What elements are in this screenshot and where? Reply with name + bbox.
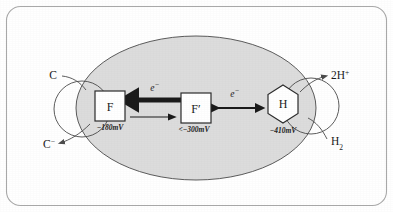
node-f-prime-potential: <−300mV — [179, 125, 211, 134]
hydrogen-subscript: 2 — [339, 143, 343, 152]
node-f-prime-label: F′ — [191, 102, 201, 116]
label-proton: 2H+ — [331, 68, 349, 82]
node-h-label: H — [279, 97, 288, 111]
electron-transfer-diagram: F −180mV F′ <−300mV H −410mV e− e− C — [0, 0, 393, 212]
proton-charge: + — [345, 68, 349, 77]
electron-charge-left: − — [155, 80, 160, 89]
node-f-label: F — [107, 100, 114, 114]
substrate-c-base: C — [49, 69, 57, 81]
label-hydrogen: H2 — [331, 135, 343, 152]
node-f-potential: −180mV — [97, 123, 125, 132]
electron-charge-right: − — [235, 86, 240, 95]
figure-root: F −180mV F′ <−300mV H −410mV e− e− C — [0, 0, 393, 212]
hydrogen-base: H — [331, 135, 339, 147]
proton-base: 2H — [331, 69, 345, 81]
label-substrate-c-minus: C− — [43, 137, 55, 151]
substrate-c-minus-charge: − — [51, 137, 55, 146]
node-h-potential: −410mV — [270, 126, 298, 135]
label-substrate-c: C — [49, 69, 57, 81]
